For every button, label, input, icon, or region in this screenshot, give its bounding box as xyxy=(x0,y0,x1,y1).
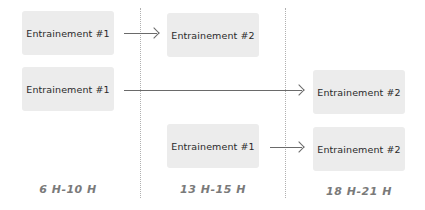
session-label: Entrainement #2 xyxy=(171,30,254,41)
time-slot-label-morning: 6 H-10 H xyxy=(8,183,128,196)
session-box-row1-second: Entrainement #2 xyxy=(167,13,259,57)
session-box-row2-first: Entrainement #1 xyxy=(22,67,114,111)
column-divider-2 xyxy=(285,8,286,198)
session-label: Entrainement #1 xyxy=(26,84,109,95)
session-label: Entrainement #2 xyxy=(317,87,400,98)
session-label: Entrainement #2 xyxy=(317,144,400,155)
session-box-row3-first: Entrainement #1 xyxy=(167,124,259,168)
session-box-row1-first: Entrainement #1 xyxy=(22,11,114,55)
session-box-row3-second: Entrainement #2 xyxy=(313,127,405,171)
session-label: Entrainement #1 xyxy=(171,141,254,152)
arrow-right-icon xyxy=(124,33,157,34)
session-label: Entrainement #1 xyxy=(26,28,109,39)
arrow-right-icon xyxy=(124,90,302,91)
arrow-right-icon xyxy=(270,147,302,148)
column-divider-1 xyxy=(140,8,141,198)
session-box-row2-second: Entrainement #2 xyxy=(313,70,405,114)
time-slot-label-evening: 18 H-21 H xyxy=(299,185,419,198)
time-slot-label-afternoon: 13 H-15 H xyxy=(153,183,273,196)
